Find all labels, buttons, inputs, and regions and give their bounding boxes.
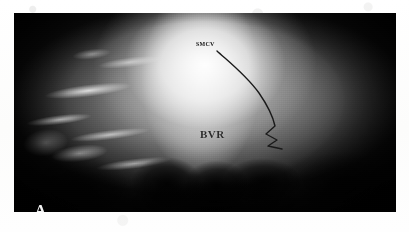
panel-letter-label: A — [35, 203, 46, 212]
vein-trace-line — [217, 51, 282, 149]
vessel-label-smcv: SMCV — [196, 41, 214, 47]
vessel-label-bvr: BVR — [200, 129, 225, 140]
radiograph-plate: SMCV BVR A — [14, 13, 396, 212]
figure-page: SMCV BVR A — [0, 0, 409, 232]
